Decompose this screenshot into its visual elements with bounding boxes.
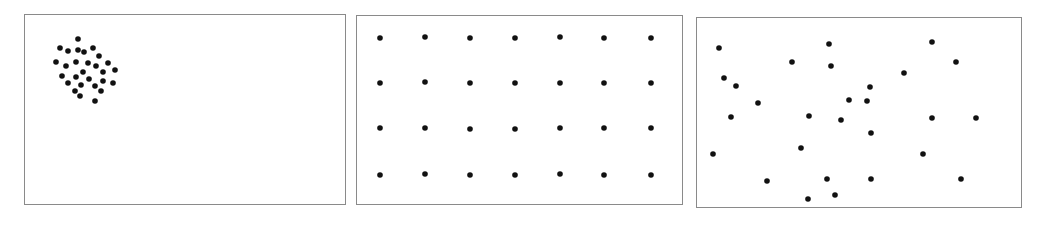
data-point bbox=[467, 126, 473, 132]
data-point bbox=[512, 35, 518, 41]
data-point bbox=[838, 117, 844, 123]
data-point bbox=[377, 35, 383, 41]
regular-scatter-plot bbox=[357, 16, 682, 204]
data-point bbox=[929, 39, 935, 45]
data-point bbox=[901, 70, 907, 76]
data-point bbox=[377, 172, 383, 178]
data-point bbox=[601, 125, 607, 131]
data-point bbox=[92, 83, 98, 89]
data-point bbox=[601, 35, 607, 41]
data-point bbox=[377, 80, 383, 86]
data-point bbox=[828, 63, 834, 69]
data-point bbox=[75, 36, 81, 42]
data-point bbox=[846, 97, 852, 103]
data-point bbox=[512, 126, 518, 132]
data-point bbox=[710, 151, 716, 157]
data-point bbox=[868, 176, 874, 182]
data-point bbox=[63, 63, 69, 69]
data-point bbox=[958, 176, 964, 182]
data-point bbox=[100, 78, 106, 84]
data-point bbox=[422, 79, 428, 85]
data-point bbox=[798, 145, 804, 151]
data-point bbox=[57, 45, 63, 51]
data-point bbox=[953, 59, 959, 65]
data-point bbox=[648, 80, 654, 86]
data-point bbox=[80, 69, 86, 75]
data-point bbox=[467, 80, 473, 86]
data-point bbox=[728, 114, 734, 120]
data-point bbox=[92, 98, 98, 104]
data-point bbox=[77, 93, 83, 99]
data-point bbox=[112, 67, 118, 73]
data-point bbox=[805, 196, 811, 202]
regular-pattern-panel bbox=[356, 15, 683, 205]
data-point bbox=[85, 60, 91, 66]
data-point bbox=[73, 74, 79, 80]
data-point bbox=[512, 80, 518, 86]
data-point bbox=[601, 80, 607, 86]
data-point bbox=[601, 172, 607, 178]
data-point bbox=[557, 80, 563, 86]
data-point bbox=[93, 63, 99, 69]
clustered-pattern-panel bbox=[24, 14, 346, 205]
data-point bbox=[377, 125, 383, 131]
data-point bbox=[973, 115, 979, 121]
data-point bbox=[920, 151, 926, 157]
data-point bbox=[86, 76, 92, 82]
data-point bbox=[73, 59, 79, 65]
data-point bbox=[422, 34, 428, 40]
data-point bbox=[422, 171, 428, 177]
data-point bbox=[789, 59, 795, 65]
data-point bbox=[72, 88, 78, 94]
random-pattern-panel bbox=[696, 17, 1022, 208]
data-point bbox=[755, 100, 761, 106]
data-point bbox=[98, 88, 104, 94]
data-point bbox=[733, 83, 739, 89]
data-point bbox=[90, 45, 96, 51]
data-point bbox=[557, 171, 563, 177]
data-point bbox=[648, 125, 654, 131]
data-point bbox=[826, 41, 832, 47]
data-point bbox=[832, 192, 838, 198]
data-point bbox=[648, 35, 654, 41]
data-point bbox=[467, 35, 473, 41]
data-point bbox=[867, 84, 873, 90]
random-scatter-plot bbox=[697, 18, 1021, 207]
data-point bbox=[648, 172, 654, 178]
data-point bbox=[65, 48, 71, 54]
clustered-scatter-plot bbox=[25, 15, 345, 204]
data-point bbox=[716, 45, 722, 51]
data-point bbox=[557, 34, 563, 40]
data-point bbox=[65, 80, 71, 86]
data-point bbox=[467, 172, 473, 178]
data-point bbox=[764, 178, 770, 184]
data-point bbox=[105, 60, 111, 66]
data-point bbox=[53, 59, 59, 65]
data-point bbox=[96, 53, 102, 59]
data-point bbox=[78, 82, 84, 88]
data-point bbox=[721, 75, 727, 81]
data-point bbox=[864, 98, 870, 104]
data-point bbox=[512, 172, 518, 178]
data-point bbox=[929, 115, 935, 121]
data-point bbox=[824, 176, 830, 182]
data-point bbox=[557, 125, 563, 131]
data-point bbox=[806, 113, 812, 119]
data-point bbox=[100, 69, 106, 75]
data-point bbox=[59, 73, 65, 79]
data-point bbox=[110, 80, 116, 86]
data-point bbox=[422, 125, 428, 131]
data-point bbox=[868, 130, 874, 136]
data-point bbox=[75, 47, 81, 53]
data-point bbox=[81, 49, 87, 55]
